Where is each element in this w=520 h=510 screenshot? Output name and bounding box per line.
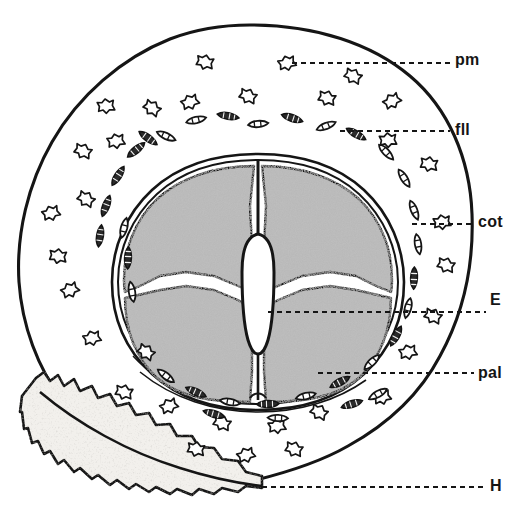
label-fll: fll	[455, 122, 470, 138]
label-cot: cot	[478, 214, 503, 230]
label-e: E	[490, 292, 501, 308]
figure-drawing	[0, 0, 520, 510]
seed-cross-section-figure: pm fll cot E pal H	[0, 0, 520, 510]
label-h: H	[490, 478, 502, 494]
label-pal: pal	[478, 365, 502, 381]
label-pm: pm	[455, 52, 480, 68]
